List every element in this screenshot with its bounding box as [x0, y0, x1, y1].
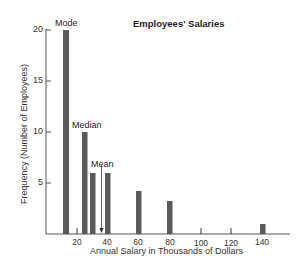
bar [167, 201, 173, 234]
bar [260, 224, 266, 234]
x-tick-label: 20 [65, 237, 89, 247]
y-tick-label: 20 [23, 24, 43, 34]
x-tick-label: 60 [126, 237, 150, 247]
mode-annotation: Mode [55, 18, 78, 28]
y-tick-label: 15 [23, 75, 43, 85]
x-tick-label: 40 [95, 237, 119, 247]
y-tick-label: 10 [23, 126, 43, 136]
x-tick-label: 100 [189, 238, 213, 248]
mean-annotation: Mean [91, 159, 114, 169]
bar-median [82, 132, 88, 234]
bar [90, 173, 96, 234]
salary-histogram: Employees' Salaries Frequency (Number of… [0, 0, 306, 275]
plot-area [0, 0, 306, 275]
x-tick-label: 80 [158, 237, 182, 247]
bar [136, 191, 142, 234]
bar-mode [63, 30, 69, 234]
y-tick-label: 5 [23, 177, 43, 187]
bar [105, 173, 111, 234]
arrowhead-icon [100, 228, 104, 233]
x-tick-label: 120 [219, 238, 243, 248]
x-tick-label: 140 [250, 237, 274, 247]
median-annotation: Median [72, 120, 102, 130]
